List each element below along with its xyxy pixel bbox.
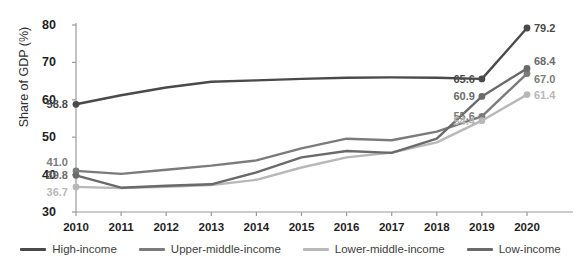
value-label: 60.9 — [453, 90, 474, 102]
data-point-marker — [479, 76, 486, 83]
data-point-marker — [479, 117, 486, 124]
legend-swatch-icon — [303, 248, 329, 251]
legend-label: High-income — [52, 243, 117, 255]
legend-label: Upper-middle-income — [171, 243, 281, 255]
legend-label: Low-income — [499, 243, 561, 255]
chart-legend: High-incomeUpper-middle-incomeLower-midd… — [0, 243, 581, 255]
data-point-marker — [524, 25, 531, 32]
series-line-lower-middle-income — [76, 95, 527, 189]
value-label: 79.2 — [534, 22, 555, 34]
value-label: 36.7 — [47, 186, 68, 198]
legend-item[interactable]: Low-income — [467, 243, 561, 255]
legend-item[interactable]: Upper-middle-income — [139, 243, 281, 255]
data-point-marker — [73, 184, 80, 191]
data-point-marker — [479, 93, 486, 100]
legend-swatch-icon — [139, 248, 165, 251]
data-point-marker — [524, 65, 531, 72]
legend-item[interactable]: High-income — [20, 243, 117, 255]
legend-swatch-icon — [467, 248, 493, 251]
data-point-marker — [73, 101, 80, 108]
legend-swatch-icon — [20, 248, 46, 251]
value-label: 58.8 — [47, 98, 68, 110]
series-line-low-income — [76, 68, 527, 187]
value-label: 61.4 — [534, 89, 555, 101]
line-chart: Share of GDP (%) 304050607080 2010201120… — [0, 0, 581, 263]
legend-item[interactable]: Lower-middle-income — [303, 243, 445, 255]
value-label: 41.0 — [47, 156, 68, 168]
value-label: 65.6 — [453, 73, 474, 85]
data-point-marker — [73, 172, 80, 179]
value-label: 68.4 — [534, 55, 555, 67]
value-label: 67.0 — [534, 73, 555, 85]
value-label: 39.8 — [47, 169, 68, 181]
data-point-marker — [524, 91, 531, 98]
value-label: 54.4 — [453, 115, 474, 127]
plot-area — [0, 0, 581, 263]
legend-label: Lower-middle-income — [335, 243, 445, 255]
